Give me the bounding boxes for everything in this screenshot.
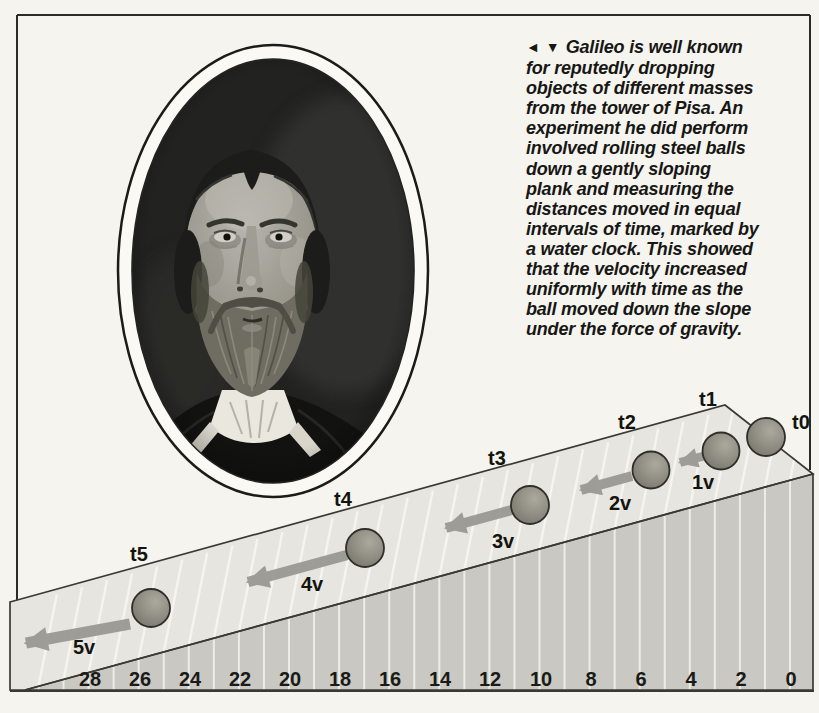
scale-number-24: 24 — [179, 668, 202, 690]
caption-line: intervals of time, marked by — [526, 219, 798, 239]
scale-number-28: 28 — [79, 668, 101, 690]
scale-number-20: 20 — [279, 668, 301, 690]
caption-line: experiment he did perform — [526, 118, 798, 138]
caption-line: for reputedly dropping — [526, 58, 798, 78]
label-4v: 4v — [301, 573, 324, 595]
ball-t5 — [132, 589, 170, 627]
scale-number-4: 4 — [685, 668, 697, 690]
scale-number-2: 2 — [735, 668, 746, 690]
scale-number-0: 0 — [785, 668, 796, 690]
caption-line: involved rolling steel balls — [526, 138, 798, 158]
book-figure-page: t0 t1 t2 t3 t4 t5 1v 2v 3v 4v 5v 28 26 2… — [0, 0, 819, 713]
caption-line: under the force of gravity. — [526, 319, 798, 339]
scale-number-6: 6 — [635, 668, 646, 690]
ball-t4 — [346, 529, 384, 567]
caption-line: objects of different masses — [526, 78, 798, 98]
scale-number-26: 26 — [129, 668, 151, 690]
scale-number-12: 12 — [479, 668, 501, 690]
ball-t3 — [511, 486, 549, 524]
scale-number-18: 18 — [329, 668, 351, 690]
caption-line: a water clock. This showed — [526, 239, 798, 259]
caption-line: uniformly with time as the — [526, 279, 798, 299]
label-1v: 1v — [692, 471, 715, 493]
down-arrow-icon: ▼ — [546, 39, 561, 55]
galileo-portrait — [118, 45, 440, 497]
scale-number-14: 14 — [429, 668, 452, 690]
label-2v: 2v — [609, 492, 632, 514]
caption-line: ◄▼Galileo is well known — [526, 37, 798, 58]
ball-t1 — [703, 433, 740, 470]
caption-line: plank and measuring the — [526, 179, 798, 199]
ball-t2 — [633, 452, 670, 489]
label-t5: t5 — [130, 543, 148, 565]
caption-line: that the velocity increased — [526, 259, 798, 279]
scale-number-16: 16 — [379, 668, 401, 690]
caption-line: down a gently sloping — [526, 159, 798, 179]
label-t3: t3 — [488, 447, 506, 469]
caption-line: ball moved down the slope — [526, 299, 798, 319]
label-t2: t2 — [618, 411, 636, 433]
label-3v: 3v — [492, 530, 515, 552]
caption-text: Galileo is well known — [566, 37, 743, 57]
scale-number-22: 22 — [229, 668, 251, 690]
label-t1: t1 — [699, 388, 717, 410]
caption-line: distances moved in equal — [526, 199, 798, 219]
left-arrow-icon: ◄ — [526, 39, 541, 55]
arrow-1v — [680, 456, 704, 463]
label-t4: t4 — [334, 488, 353, 510]
ball-t0 — [747, 418, 785, 456]
label-t0: t0 — [792, 411, 810, 433]
figure-caption: ◄▼Galileo is well known for reputedly dr… — [526, 37, 798, 339]
caption-line: from the tower of Pisa. An — [526, 98, 798, 118]
label-5v: 5v — [73, 636, 96, 658]
scale-number-8: 8 — [585, 668, 596, 690]
inclined-plank-diagram: t0 t1 t2 t3 t4 t5 1v 2v 3v 4v 5v 28 26 2… — [10, 387, 814, 691]
distance-scale: 28 26 24 22 20 18 16 14 12 10 8 6 4 2 0 — [79, 668, 797, 690]
scale-number-10: 10 — [530, 668, 552, 690]
